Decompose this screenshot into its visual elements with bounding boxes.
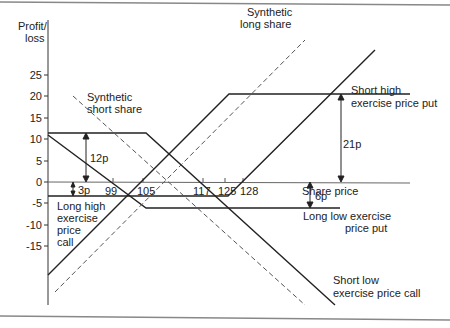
top-rule bbox=[0, 2, 450, 5]
y-tick: 15 bbox=[12, 113, 42, 124]
synthetic-short-line bbox=[73, 96, 305, 305]
bottom-rule bbox=[0, 316, 450, 320]
annotation-21p: 21p bbox=[343, 138, 361, 150]
x-tick: 128 bbox=[240, 185, 258, 197]
long-high-call-label-1: Long high bbox=[57, 200, 105, 212]
short-low-call-label-2: exercise price call bbox=[333, 287, 420, 299]
y-tick: -15 bbox=[12, 241, 42, 252]
y-tick: 20 bbox=[12, 91, 42, 102]
x-tick: 117 bbox=[193, 185, 211, 197]
synthetic-long-label-2: long share bbox=[240, 18, 291, 30]
y-tick: 0 bbox=[12, 177, 42, 188]
long-high-call-label-2: exercise bbox=[57, 212, 98, 224]
y-tick: 10 bbox=[12, 134, 42, 145]
x-tick: 105 bbox=[137, 185, 155, 197]
y-axis-ticks bbox=[44, 75, 48, 246]
synthetic-short-label-1: Synthetic bbox=[87, 91, 132, 103]
synthetic-short-label-2: short share bbox=[87, 103, 142, 115]
long-low-put-label-1: Long low exercise bbox=[303, 210, 391, 222]
y-tick: -5 bbox=[12, 198, 42, 209]
x-axis-ticks bbox=[113, 178, 243, 182]
short-low-call-label-1: Short low bbox=[333, 274, 379, 286]
arrow-3p bbox=[71, 182, 75, 196]
x-tick: 125 bbox=[218, 185, 236, 197]
share-price-label: Share price bbox=[302, 185, 358, 197]
y-axis-label-2: loss bbox=[25, 32, 45, 44]
x-tick: 99 bbox=[105, 185, 117, 197]
y-tick: -10 bbox=[12, 220, 42, 231]
synthetic-long-line bbox=[55, 40, 305, 292]
short-high-put-label-2: exercise price put bbox=[351, 97, 437, 109]
long-high-call-label-3: price bbox=[57, 224, 81, 236]
arrow-12p bbox=[83, 133, 89, 182]
annotation-12p: 12p bbox=[90, 152, 108, 164]
y-axis-label-1: Profit/ bbox=[18, 20, 47, 32]
payoff-chart bbox=[0, 0, 450, 328]
synthetic-long-label-1: Synthetic bbox=[247, 6, 292, 18]
short-high-put-label-1: Short high bbox=[351, 84, 401, 96]
x-axis bbox=[48, 182, 410, 183]
long-low-put-line bbox=[48, 135, 340, 208]
long-low-put-label-2: price put bbox=[345, 222, 387, 234]
y-tick: 25 bbox=[12, 70, 42, 81]
annotation-3p: 3p bbox=[78, 184, 90, 196]
y-tick: 5 bbox=[12, 156, 42, 167]
long-high-call-label-4: call bbox=[57, 236, 74, 248]
long-high-call-line bbox=[48, 50, 375, 196]
